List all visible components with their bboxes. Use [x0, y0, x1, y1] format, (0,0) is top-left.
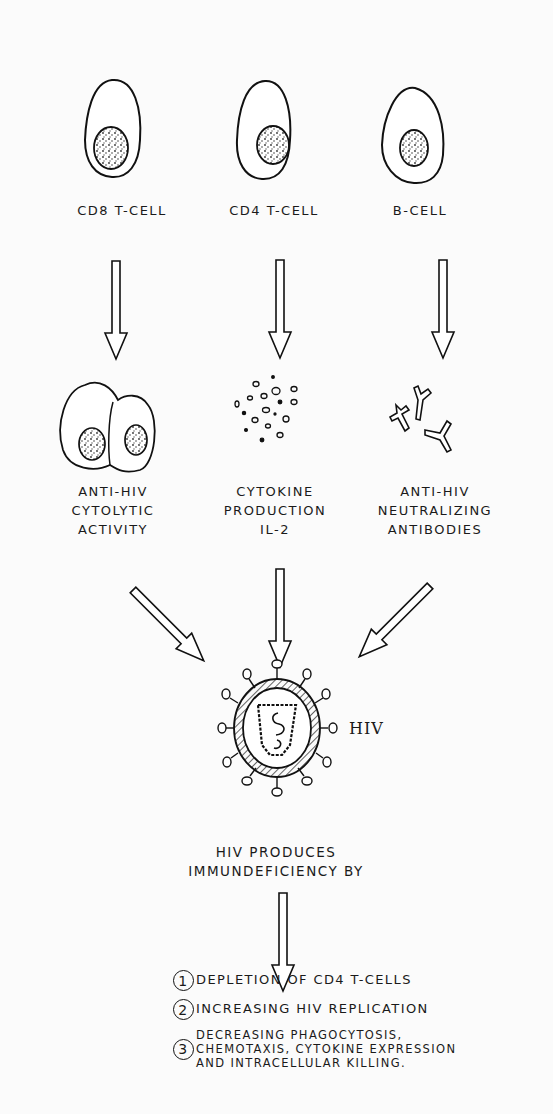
arrow-down-center — [269, 569, 291, 667]
mechanism-item: 1 DEPLETION OF CD4 T-CELLS — [173, 970, 457, 991]
label-cd8-t-cell: CD8 T-CELL — [62, 201, 182, 220]
cytolytic-cells-icon — [60, 383, 154, 472]
mechanism-item: 2 INCREASING HIV REPLICATION — [173, 999, 457, 1020]
cd8-t-cell-icon — [85, 80, 140, 177]
conclusion-text: HIV PRODUCES IMMUNDEFICIENCY BY — [126, 843, 426, 881]
number-badge: 1 — [173, 970, 194, 991]
number-badge: 3 — [173, 1039, 194, 1060]
number-badge: 2 — [173, 999, 194, 1020]
b-cell-icon — [382, 88, 443, 183]
cytokine-particles-icon — [235, 376, 297, 442]
label-cytolytic-activity: ANTI-HIV CYTOLYTIC ACTIVITY — [38, 482, 188, 539]
label-b-cell: B-CELL — [370, 201, 470, 220]
arrow-down-cd4 — [269, 260, 291, 358]
hiv-virus-icon — [218, 660, 337, 796]
arrow-down-cd8 — [105, 261, 127, 359]
label-cd4-t-cell: CD4 T-CELL — [214, 201, 334, 220]
cd4-t-cell-icon — [237, 81, 290, 179]
arrow-down-b — [432, 260, 454, 358]
diagram-artwork — [0, 0, 553, 1114]
arrow-diagonal-right — [352, 578, 438, 664]
antibodies-icon — [390, 386, 451, 452]
label-hiv: HIV — [349, 719, 384, 738]
label-neutralizing-antibodies: ANTI-HIV NEUTRALIZING ANTIBODIES — [355, 482, 515, 539]
arrow-diagonal-left — [125, 582, 211, 668]
label-cytokine-production: CYTOKINE PRODUCTION IL-2 — [200, 482, 350, 539]
mechanism-list: 1 DEPLETION OF CD4 T-CELLS 2 INCREASING … — [173, 970, 457, 1078]
mechanism-item: 3 DECREASING PHAGOCYTOSIS, CHEMOTAXIS, C… — [173, 1028, 457, 1070]
